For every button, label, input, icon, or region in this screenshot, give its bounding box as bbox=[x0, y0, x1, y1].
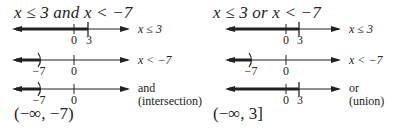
line-label-union: (union) bbox=[349, 95, 384, 107]
number-line-x-lt-neg7: −7 0 x < −7 bbox=[0, 47, 199, 77]
line-label: x < −7 bbox=[349, 54, 383, 66]
number-line-x-le-3: 0 3 x ≤ 3 bbox=[199, 16, 398, 46]
line-label: x < −7 bbox=[138, 54, 172, 66]
number-line-x-le-3: 0 3 x ≤ 3 bbox=[0, 16, 199, 46]
union-panel: x ≤ 3 or x < −7 0 3 x ≤ 3 −7 0 x < −7 bbox=[199, 0, 398, 135]
line-label-intersection: (intersection) bbox=[138, 95, 202, 107]
interval-result: (−∞, 3] bbox=[213, 104, 263, 124]
tick-label-0: 0 bbox=[283, 94, 289, 106]
tick-label-3: 3 bbox=[297, 94, 303, 106]
tick-label-0: 0 bbox=[283, 34, 289, 46]
tick-label-0: 0 bbox=[71, 34, 77, 46]
interval-result: (−∞, −7) bbox=[14, 104, 74, 124]
number-line-intersection: −7 0 and (intersection) bbox=[0, 76, 199, 106]
line-label: x ≤ 3 bbox=[349, 23, 373, 35]
intersection-panel: x ≤ 3 and x < −7 0 3 x ≤ 3 −7 0 x < −7 bbox=[0, 0, 199, 135]
number-line-union: 0 3 or (union) bbox=[199, 76, 398, 106]
tick-label-3: 3 bbox=[297, 34, 303, 46]
number-line-x-lt-neg7: −7 0 x < −7 bbox=[199, 47, 398, 77]
line-label-and: and bbox=[138, 82, 155, 94]
number-line-graphic bbox=[0, 16, 199, 46]
line-label: x ≤ 3 bbox=[138, 23, 162, 35]
tick-label-3: 3 bbox=[86, 34, 92, 46]
line-label-or: or bbox=[349, 82, 359, 94]
